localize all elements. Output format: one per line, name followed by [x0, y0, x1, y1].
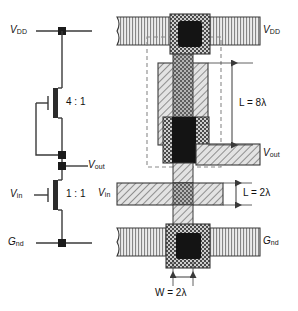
layout-gnd-label: Gnd [263, 236, 279, 246]
pulldown-ratio-label: 1 : 1 [66, 189, 85, 199]
schematic-vdd-label: VDD [10, 25, 27, 35]
pullup-transistor [36, 88, 62, 155]
schematic-gnd-label: Gnd [8, 237, 24, 247]
vout-contact-cut [172, 117, 196, 163]
vout-node [58, 162, 66, 170]
schematic-vin-label: Vin [10, 189, 23, 199]
nmos-inverter-figure [0, 0, 298, 311]
layout-vout-label: Vout [263, 148, 280, 158]
vin-poly-strip [117, 183, 223, 205]
dim-l8-label: L = 8λ [239, 98, 266, 108]
dim-l2-label: L = 2λ [243, 188, 270, 198]
dim-w-label: W = 2λ [155, 288, 186, 298]
gnd-node [58, 239, 66, 247]
mid-diffusion-link [173, 163, 193, 183]
vin-gate-overlap [173, 183, 193, 205]
pullup-ratio-label: 4 : 1 [66, 97, 85, 107]
pulldown-transistor [34, 180, 62, 243]
layout-panel [117, 14, 260, 286]
schematic-panel [34, 27, 92, 247]
vdd-contact-cut [178, 21, 202, 47]
layout-vin-label: Vin [98, 188, 111, 198]
gnd-contact-cut [176, 233, 201, 259]
layout-vdd-label: VDD [263, 25, 280, 35]
vout-diffusion-arm [196, 144, 260, 165]
schematic-vout-label: Vout [88, 160, 105, 170]
